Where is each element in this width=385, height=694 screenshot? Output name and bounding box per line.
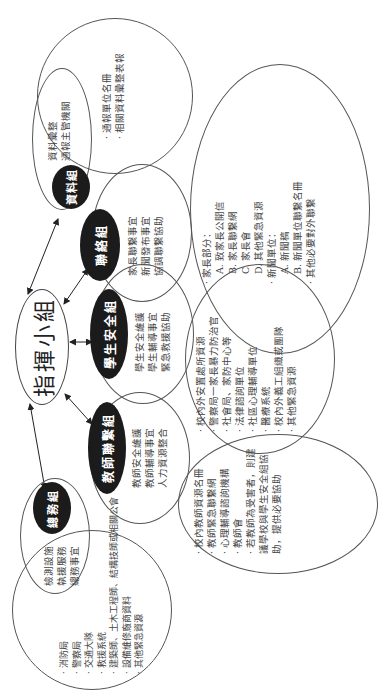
arrow-to-data-group: [28, 219, 58, 294]
liaison-group-node: 聯絡組: [80, 209, 120, 281]
arrow-to-general-group: [30, 404, 45, 489]
general-details: 消防局 警察局 交通大隊 救援系統 建築師、土木工程師、結構技師或相關公會 設備…: [58, 497, 146, 674]
safety-group-node: 學生安全組: [90, 289, 128, 379]
teacher-details: 校內教師資源名冊 教師緊急聯繫網 心理輔導諮詢機構 教師會 若教師為受害者，則建…: [192, 444, 283, 554]
arrow-to-liaison-group: [64, 269, 88, 304]
data-group-node: 資料組: [52, 165, 90, 209]
org-diagram: 資料組 資料彙整 通報主管機關 通報單位名冊 相關資料彙整表報 聯絡組 家長聯繫…: [0, 0, 385, 694]
arrow-to-teacher-group: [65, 394, 92, 424]
data-details: 通報單位名冊 相關資料彙整表報: [100, 53, 126, 139]
data-duties: 資料彙整 通報主管機關: [46, 101, 72, 161]
safety-details: 校內外安置處所資源 警察局一家長暴力防治官 社會局、家防中心等 法律諮詢單位 社…: [194, 316, 298, 432]
teacher-duties: 教師安全維護 教師輔導事宜 人力資源整合: [130, 428, 169, 488]
safety-duties: 學生安全維護 學生輔導事宜 緊急救援協助: [133, 312, 172, 372]
command-group-node: 指揮小組: [15, 289, 69, 405]
teacher-group-node: 教師聯繫組: [88, 402, 126, 494]
